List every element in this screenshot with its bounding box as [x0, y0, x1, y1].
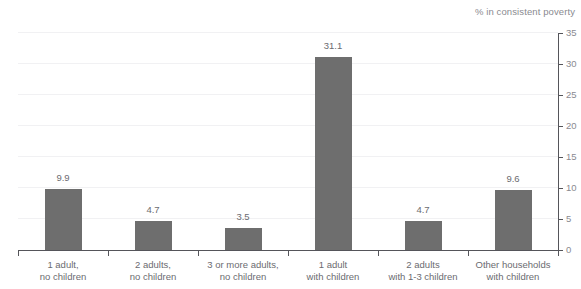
x-tick-0 [18, 250, 19, 256]
y-tick-5 [558, 219, 563, 220]
clipped-title-sliver [18, 0, 558, 3]
y-tick-20 [558, 126, 563, 127]
y-tick-label-30: 30 [566, 59, 577, 69]
category-label-line1: 2 adults, [135, 259, 171, 270]
category-label: 2 adultswith 1-3 children [378, 259, 468, 283]
gridline-30 [18, 63, 558, 64]
bar-value-label: 4.7 [393, 204, 453, 215]
y-tick-10 [558, 188, 563, 189]
x-tick-3 [288, 250, 289, 256]
bar [225, 228, 262, 250]
category-label: 2 adults,no children [108, 259, 198, 283]
gridline-15 [18, 156, 558, 157]
bar-value-label: 3.5 [213, 211, 273, 222]
gridline-10 [18, 187, 558, 188]
bar [45, 189, 82, 250]
y-tick-30 [558, 64, 563, 65]
category-label: Other householdswith children [468, 259, 558, 283]
category-label-line1: Other households [476, 259, 551, 270]
x-tick-6 [558, 250, 559, 256]
category-label-line1: 1 adult, [47, 259, 78, 270]
bar [315, 57, 352, 250]
category-label-line1: 2 adults [406, 259, 439, 270]
bar-value-label: 9.6 [483, 173, 543, 184]
x-tick-1 [108, 250, 109, 256]
category-label-line2: with children [468, 271, 558, 283]
bar-value-label: 9.9 [33, 172, 93, 183]
x-tick-5 [468, 250, 469, 256]
gridline-20 [18, 125, 558, 126]
y-tick-label-20: 20 [566, 121, 577, 131]
consistent-poverty-bar-chart: % in consistent poverty 9.94.73.531.14.7… [0, 0, 581, 289]
y-tick-label-15: 15 [566, 152, 577, 162]
bar [135, 221, 172, 250]
y-tick-25 [558, 95, 563, 96]
gridline-35 [18, 32, 558, 33]
x-tick-4 [378, 250, 379, 256]
category-label-line2: no children [198, 271, 288, 283]
plot-area: 9.94.73.531.14.79.6 [18, 33, 558, 250]
category-label-line1: 1 adult [319, 259, 348, 270]
y-tick-label-35: 35 [566, 28, 577, 38]
y-tick-label-25: 25 [566, 90, 577, 100]
category-label: 3 or more adults,no children [198, 259, 288, 283]
category-label-line1: 3 or more adults, [207, 259, 278, 270]
y-tick-label-0: 0 [566, 245, 571, 255]
gridline-5 [18, 218, 558, 219]
unit-caption: % in consistent poverty [475, 6, 575, 17]
y-tick-label-10: 10 [566, 183, 577, 193]
category-label-line2: with 1-3 children [378, 271, 468, 283]
x-tick-2 [198, 250, 199, 256]
category-label-line2: with children [288, 271, 378, 283]
bar-value-label: 4.7 [123, 204, 183, 215]
category-label-line2: no children [18, 271, 108, 283]
bar-value-label: 31.1 [303, 40, 363, 51]
category-label: 1 adult,no children [18, 259, 108, 283]
bar [495, 190, 532, 250]
y-tick-label-5: 5 [566, 214, 571, 224]
y-tick-35 [558, 33, 563, 34]
gridline-25 [18, 94, 558, 95]
category-label: 1 adultwith children [288, 259, 378, 283]
category-label-line2: no children [108, 271, 198, 283]
y-tick-15 [558, 157, 563, 158]
bar [405, 221, 442, 250]
